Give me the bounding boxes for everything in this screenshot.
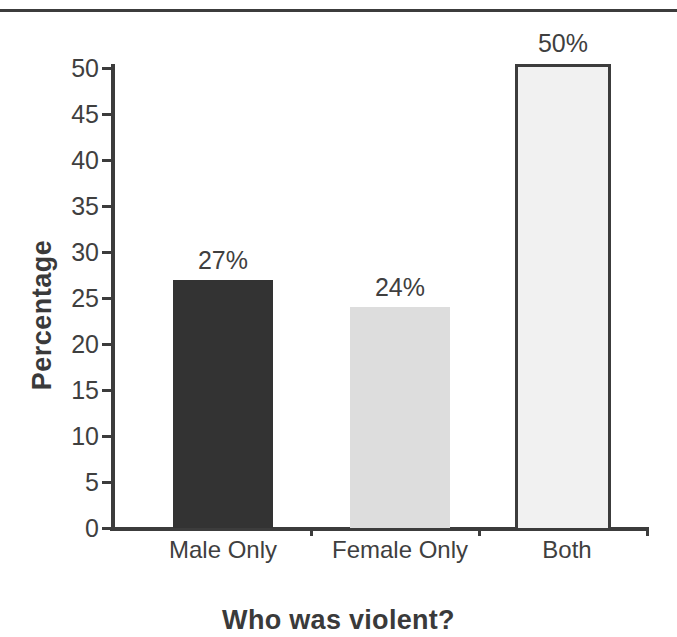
x-axis-category-label-both: Both — [477, 537, 657, 563]
chart-figure: 0 5 10 15 20 25 30 35 40 45 50 27% 24% — [0, 0, 677, 637]
bar-value-label-female-only: 24% — [340, 275, 460, 300]
y-axis-tick — [102, 251, 112, 254]
bar-female-only — [350, 307, 450, 528]
y-axis-tick — [102, 481, 112, 484]
bar-value-label-both: 50% — [503, 31, 623, 56]
x-axis-category-label-male-only: Male Only — [133, 537, 313, 563]
y-axis-tick — [102, 435, 112, 438]
y-axis-tick-label: 50 — [9, 56, 99, 81]
y-axis-title: Percentage — [29, 240, 56, 391]
x-axis-title: Who was violent? — [0, 605, 677, 635]
y-axis-tick-label: 35 — [9, 194, 99, 219]
y-axis-tick — [102, 527, 112, 530]
y-axis-tick — [102, 389, 112, 392]
x-axis-category-label-female-only: Female Only — [310, 537, 490, 563]
y-axis-tick — [102, 297, 112, 300]
y-axis-tick — [102, 159, 112, 162]
x-axis-tick — [478, 527, 481, 536]
bar-value-label-male-only: 27% — [163, 248, 283, 273]
y-axis-tick — [102, 113, 112, 116]
y-axis-tick-label: 10 — [9, 424, 99, 449]
bar-male-only — [173, 280, 273, 528]
bar-both — [515, 64, 611, 528]
y-axis-tick-label: 0 — [9, 516, 99, 541]
x-axis-tick — [310, 527, 313, 536]
x-axis-tick — [646, 527, 649, 536]
y-axis-tick — [102, 205, 112, 208]
y-axis-tick-label: 40 — [9, 148, 99, 173]
y-axis-tick-label: 5 — [9, 470, 99, 495]
y-axis-tick-label: 45 — [9, 102, 99, 127]
y-axis-tick — [102, 67, 112, 70]
plot-area: 0 5 10 15 20 25 30 35 40 45 50 27% 24% — [0, 0, 677, 637]
y-axis-tick — [102, 343, 112, 346]
